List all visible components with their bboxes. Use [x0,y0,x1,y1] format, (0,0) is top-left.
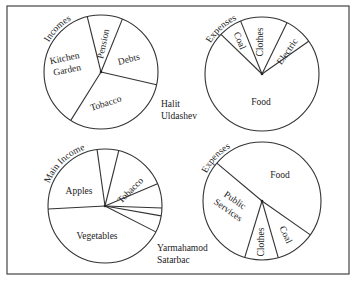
slice-label: Pension [95,28,111,60]
pie-chart-1: PensionDebtsTobaccoKitchenGardenIncomes [42,13,158,129]
slice-label: Vegetables [76,231,117,241]
slice-label: PublicServices [212,187,251,224]
owner-name-line2: Uldashev [161,111,197,121]
slice-label: Apples [66,186,93,196]
pie-center-dot [261,73,264,76]
slice-divider [101,72,157,85]
pie-charts-figure: PensionDebtsTobaccoKitchenGardenIncomesC… [0,0,355,282]
pies-group: PensionDebtsTobaccoKitchenGardenIncomesC… [0,0,321,263]
slice-divider [71,72,101,120]
owner-label-2: Yarmahamod Satarbac [157,243,208,265]
pie-chart-4: FoodCoalClothesPublicServicesExpenses [199,141,321,260]
pie-title: Incomes [42,13,73,44]
owner-name-line1: Yarmahamod [157,243,208,253]
pie-center-dot [261,200,264,203]
slice-label: KitchenGarden [49,50,83,78]
figure-border [7,6,349,274]
pie-chart-2: CoalClothesElectricFoodExpenses [204,12,319,131]
pie-title: Expenses [204,12,238,44]
pie-title: Main Incomes [0,0,86,184]
slice-label: Coal [277,224,294,245]
pie-chart-3: ApplesTobaccoVegetablesMain Incomes [0,0,162,263]
owner-name-line1: Halit [161,99,180,109]
slice-divider [97,150,105,206]
pie-title: Expenses [199,141,232,175]
owner-label-1: Halit Uldashev [161,99,197,121]
slice-divider [48,206,105,209]
slice-label: Clothes [255,27,265,56]
figure-canvas: PensionDebtsTobaccoKitchenGardenIncomesC… [0,0,355,282]
pie-center-dot [100,71,103,74]
slice-label: Debts [117,51,141,66]
slice-label: Food [270,170,290,180]
pie-center-dot [104,205,107,208]
slice-label: Tobacco [89,93,123,112]
slice-label: Food [251,97,271,107]
slice-divider [105,206,156,232]
slice-label: Clothes [256,227,266,256]
owner-name-line2: Satarbac [157,255,190,265]
